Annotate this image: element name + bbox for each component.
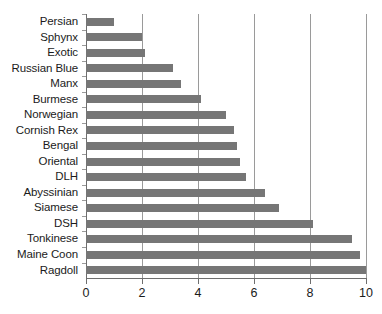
bar-row bbox=[86, 231, 366, 247]
x-tick-mark bbox=[310, 278, 311, 284]
bar bbox=[86, 64, 173, 72]
bar bbox=[86, 251, 360, 259]
bar bbox=[86, 189, 265, 197]
bar-row bbox=[86, 107, 366, 123]
x-tick-label: 10 bbox=[359, 286, 373, 300]
bar bbox=[86, 111, 226, 119]
bar-row bbox=[86, 92, 366, 108]
bar-row bbox=[86, 30, 366, 46]
category-label: Manx bbox=[0, 76, 82, 92]
x-tick-mark bbox=[366, 278, 367, 284]
category-label: Sphynx bbox=[0, 30, 82, 46]
x-tick-label: 2 bbox=[139, 286, 146, 300]
bar bbox=[86, 126, 234, 134]
bar bbox=[86, 49, 145, 57]
bar-row bbox=[86, 263, 366, 279]
bar bbox=[86, 142, 237, 150]
bar-row bbox=[86, 61, 366, 77]
bar bbox=[86, 95, 201, 103]
bar bbox=[86, 33, 142, 41]
x-tick-mark bbox=[198, 278, 199, 284]
category-label: Abyssinian bbox=[0, 185, 82, 201]
category-label: Ragdoll bbox=[0, 263, 82, 279]
category-label: Cornish Rex bbox=[0, 123, 82, 139]
x-tick-label: 6 bbox=[251, 286, 258, 300]
bar bbox=[86, 158, 240, 166]
x-axis-ticks bbox=[86, 278, 367, 285]
bars-layer bbox=[86, 14, 366, 278]
bar-row bbox=[86, 200, 366, 216]
gridline bbox=[366, 14, 367, 278]
bar bbox=[86, 235, 352, 243]
x-tick-label: 0 bbox=[83, 286, 90, 300]
plot-area bbox=[86, 14, 366, 278]
bar-row bbox=[86, 76, 366, 92]
category-label: DSH bbox=[0, 216, 82, 232]
bar-row bbox=[86, 45, 366, 61]
bar-row bbox=[86, 247, 366, 263]
category-label: Bengal bbox=[0, 138, 82, 154]
bar bbox=[86, 80, 181, 88]
category-label: DLH bbox=[0, 169, 82, 185]
x-tick-label: 8 bbox=[307, 286, 314, 300]
category-label: Russian Blue bbox=[0, 61, 82, 77]
x-tick-label: 4 bbox=[195, 286, 202, 300]
category-label: Burmese bbox=[0, 92, 82, 108]
category-label: Tonkinese bbox=[0, 231, 82, 247]
x-tick-mark bbox=[142, 278, 143, 284]
horizontal-bar-chart: PersianSphynxExoticRussian BlueManxBurme… bbox=[0, 0, 382, 314]
x-tick-mark bbox=[86, 278, 87, 284]
category-label: Oriental bbox=[0, 154, 82, 170]
bar-row bbox=[86, 216, 366, 232]
bar bbox=[86, 266, 366, 274]
category-label: Maine Coon bbox=[0, 247, 82, 263]
category-label-column: PersianSphynxExoticRussian BlueManxBurme… bbox=[0, 14, 82, 278]
bar-row bbox=[86, 123, 366, 139]
x-tick-mark bbox=[254, 278, 255, 284]
bar bbox=[86, 173, 246, 181]
bar-row bbox=[86, 185, 366, 201]
bar bbox=[86, 220, 313, 228]
category-label: Norwegian bbox=[0, 107, 82, 123]
bar-row bbox=[86, 14, 366, 30]
x-axis-tick-labels: 0246810 bbox=[0, 286, 382, 308]
bar bbox=[86, 204, 279, 212]
bar-row bbox=[86, 138, 366, 154]
bar bbox=[86, 18, 114, 26]
bar-row bbox=[86, 154, 366, 170]
category-label: Exotic bbox=[0, 45, 82, 61]
category-label: Persian bbox=[0, 14, 82, 30]
category-label: Siamese bbox=[0, 200, 82, 216]
bar-row bbox=[86, 169, 366, 185]
